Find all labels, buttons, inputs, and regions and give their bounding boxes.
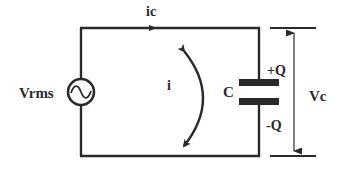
ac-voltage-source (68, 79, 94, 105)
plus-charge-label: +Q (267, 63, 286, 78)
loop-current-label: i (167, 78, 171, 93)
capacitor-top-plate (239, 79, 279, 86)
current-direction-arrow-icon (149, 25, 157, 31)
minus-charge-label: -Q (266, 118, 282, 133)
loop-current-arrow-icon (184, 51, 203, 146)
capacitor-label: C (223, 84, 234, 100)
capacitor-voltage-label: Vc (309, 88, 327, 104)
current-label-ic: ic (146, 4, 156, 19)
source-label: Vrms (19, 85, 54, 101)
capacitor (239, 79, 279, 105)
capacitor-bottom-plate (239, 98, 279, 105)
circuit-diagram: Vrms ic i C +Q -Q Vc (0, 0, 343, 171)
